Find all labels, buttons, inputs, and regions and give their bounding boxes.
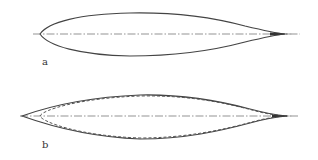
body-outline-a (40, 13, 285, 56)
body-outline-b (22, 95, 287, 139)
panel-label-a: a (42, 56, 48, 67)
panel-a: a (33, 13, 300, 67)
panel-b: b (20, 95, 300, 150)
panel-label-b: b (42, 139, 48, 150)
figure-canvas: a b (0, 0, 318, 160)
